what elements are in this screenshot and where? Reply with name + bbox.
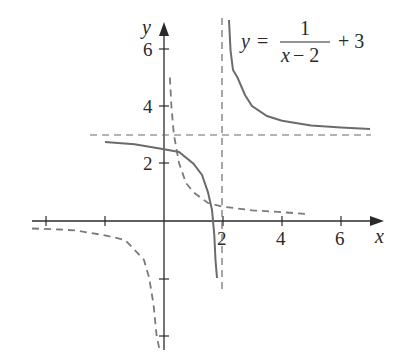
y-tick-label: 6 <box>143 39 153 60</box>
x-axis <box>32 216 384 226</box>
equation-denominator-rest: − 2 <box>293 44 319 66</box>
dashed-curve-left-branch <box>32 229 160 351</box>
x-axis-label: x <box>374 225 384 247</box>
y-axis-arrow-icon <box>159 22 169 36</box>
equation-equals: = <box>257 30 268 52</box>
equation-lhs: y <box>239 30 250 53</box>
equation-numerator: 1 <box>300 17 310 39</box>
y-axis <box>159 22 169 350</box>
y-tick-label: 4 <box>143 96 153 117</box>
equation-label: y = 1 x − 2 + 3 <box>239 17 364 66</box>
dashed-curve-right-branch <box>170 78 310 215</box>
x-tick-label: 6 <box>335 228 345 249</box>
y-axis-label: y <box>140 16 151 39</box>
y-tick-label: 2 <box>143 153 153 174</box>
equation-denominator-var: x <box>280 44 290 66</box>
equation-suffix: + 3 <box>338 30 364 52</box>
x-tick-label: 4 <box>276 228 286 249</box>
function-graph: 2 4 6 2 4 6 x y y = 1 x − 2 + 3 <box>0 0 406 363</box>
